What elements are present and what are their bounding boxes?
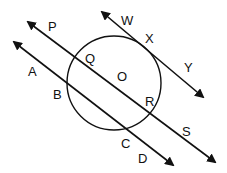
point-label-r: R bbox=[145, 94, 154, 109]
point-label-b: B bbox=[53, 87, 62, 102]
point-label-y: Y bbox=[184, 60, 193, 75]
point-label-p: P bbox=[48, 19, 57, 34]
tangent-line-wy bbox=[102, 12, 203, 97]
point-label-a: A bbox=[28, 64, 37, 79]
diagram-svg: PWXYQOABRSCD bbox=[0, 0, 227, 173]
point-label-w: W bbox=[121, 13, 134, 28]
point-label-s: S bbox=[182, 124, 191, 139]
geometry-diagram: PWXYQOABRSCD bbox=[0, 0, 227, 173]
point-label-c: C bbox=[121, 136, 130, 151]
point-label-o: O bbox=[117, 69, 127, 84]
point-label-x: X bbox=[145, 31, 154, 46]
point-label-d: D bbox=[138, 151, 147, 166]
point-label-q: Q bbox=[85, 51, 95, 66]
